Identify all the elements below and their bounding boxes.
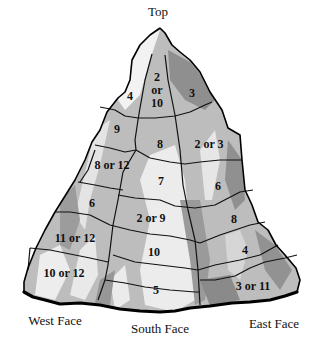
region-label-r1c: 10 [151, 96, 163, 110]
region-label-r12: 8 [231, 212, 237, 226]
region-label-r1a: 2 [154, 70, 160, 84]
mountain-diagram: Top West Face South Face East Face 2 or … [0, 0, 328, 357]
region-label-r16: 10 or 12 [43, 266, 84, 280]
region-label-r2: 4 [127, 89, 133, 103]
region-label-r6: 2 or 3 [194, 137, 223, 151]
label-south-face: South Face [131, 321, 189, 336]
region-label-r14: 10 [148, 245, 160, 259]
region-label-r4: 9 [114, 122, 120, 136]
region-label-r9: 6 [215, 179, 221, 193]
label-east-face: East Face [249, 316, 299, 331]
region-label-r10: 6 [89, 196, 95, 210]
region-label-r8: 7 [158, 174, 164, 188]
region-label-r11: 2 or 9 [136, 211, 165, 225]
region-label-r5: 8 [157, 137, 163, 151]
mountain-shading [0, 0, 328, 357]
label-top: Top [148, 4, 168, 19]
label-west-face: West Face [28, 313, 82, 328]
region-label-r7: 8 or 12 [94, 158, 129, 172]
region-label-r3: 3 [189, 86, 195, 100]
region-label-r18: 3 or 11 [236, 279, 270, 293]
region-label-r13: 11 or 12 [55, 231, 95, 245]
region-label-r15: 4 [242, 243, 248, 257]
region-label-r17: 5 [153, 283, 159, 297]
region-label-r1b: or [151, 83, 163, 97]
